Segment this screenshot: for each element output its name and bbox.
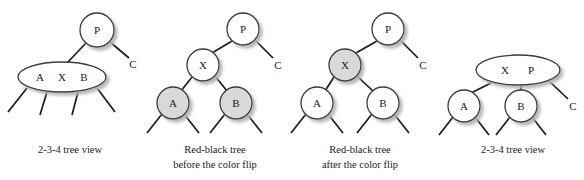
- child-stub-b-right: [394, 114, 409, 133]
- node-p3-P[interactable]: P: [372, 13, 404, 45]
- panel-4-group: X P A B C 2-3-4 tree view: [439, 55, 577, 155]
- node-p1-AXB[interactable]: A X B: [18, 62, 106, 92]
- external-label-C: C: [419, 59, 426, 71]
- external-label-C: C: [274, 59, 281, 71]
- node-label-A: A: [36, 71, 44, 83]
- edge-xp-to-a: [471, 83, 491, 93]
- child-stub-1: [8, 88, 27, 112]
- node-p2-P[interactable]: P: [227, 13, 259, 45]
- node-p4-XP[interactable]: X P: [476, 55, 560, 85]
- edge-p-to-x: [212, 41, 232, 53]
- node-label-B: B: [232, 97, 239, 109]
- edge-x-to-b: [357, 76, 373, 91]
- node-label-B: B: [379, 97, 386, 109]
- node-label-A: A: [313, 97, 321, 109]
- edge-x-to-a: [181, 77, 192, 91]
- panel-3-group: P X A B C Red-black tree after the color…: [291, 13, 427, 170]
- child-stub-4: [97, 88, 115, 112]
- child-stub-a-right: [184, 114, 199, 133]
- edge-x-to-a: [325, 77, 334, 91]
- panel-3-caption-line2: after the color flip: [322, 159, 398, 170]
- edge-p-to-c: [400, 40, 418, 58]
- node-p4-B[interactable]: B: [505, 90, 537, 122]
- node-p3-A[interactable]: A: [301, 87, 333, 119]
- child-stub-b-right: [532, 117, 546, 135]
- panel-4-caption-line1: 2-3-4 tree view: [481, 144, 546, 155]
- panel-2-caption-line2: before the color flip: [173, 159, 257, 170]
- node-label-X: X: [199, 59, 207, 71]
- edge-p-to-c: [255, 40, 273, 58]
- node-label-P: P: [385, 23, 391, 35]
- panel-2-caption-line1: Red-black tree: [184, 144, 246, 155]
- panel-3-caption-line1: Red-black tree: [329, 144, 391, 155]
- child-stub-a-right: [475, 117, 489, 135]
- edge-p-to-c: [110, 42, 129, 58]
- red-black-tree-figure: P A X B C 2-3-4 tree view: [0, 0, 584, 180]
- edge-x-to-b: [215, 76, 227, 91]
- child-stub-a-left: [439, 117, 453, 135]
- child-stub-a-left: [147, 114, 162, 133]
- child-stub-b-left: [496, 117, 510, 135]
- node-label-A: A: [460, 100, 468, 112]
- node-p3-X[interactable]: X: [329, 49, 361, 81]
- child-stub-b-right: [247, 114, 262, 133]
- edge-p-to-x: [356, 41, 377, 53]
- node-label-B: B: [80, 71, 87, 83]
- child-stub-2: [40, 92, 47, 115]
- node-p4-A[interactable]: A: [448, 90, 480, 122]
- node-label-P: P: [240, 23, 246, 35]
- node-label-P: P: [528, 64, 534, 76]
- node-label-X: X: [341, 59, 349, 71]
- external-label-C: C: [569, 100, 576, 112]
- child-stub-b-left: [357, 114, 372, 133]
- panel-1-caption-line1: 2-3-4 tree view: [38, 144, 103, 155]
- child-stub-b-left: [210, 114, 225, 133]
- node-p1-P[interactable]: P: [80, 13, 114, 47]
- node-p3-B[interactable]: B: [367, 87, 399, 119]
- external-label-C: C: [129, 58, 136, 70]
- node-ellipse: [476, 55, 560, 85]
- panel-1-group: P A X B C 2-3-4 tree view: [8, 13, 137, 155]
- child-stub-a-right: [328, 114, 343, 133]
- node-label-P: P: [94, 24, 100, 36]
- node-label-A: A: [169, 97, 177, 109]
- node-label-X: X: [58, 71, 66, 83]
- diagram-canvas: P A X B C 2-3-4 tree view: [0, 0, 584, 180]
- node-p2-B[interactable]: B: [220, 87, 252, 119]
- panel-2-group: P X A B C Red-black tree before the colo…: [147, 13, 282, 170]
- node-p2-X[interactable]: X: [187, 49, 219, 81]
- edge-p-to-axb: [67, 43, 86, 63]
- edge-xp-to-c: [549, 81, 568, 99]
- node-label-X: X: [501, 64, 509, 76]
- node-label-B: B: [517, 100, 524, 112]
- child-stub-a-left: [291, 114, 306, 133]
- node-p2-A[interactable]: A: [157, 87, 189, 119]
- child-stub-3: [72, 92, 78, 115]
